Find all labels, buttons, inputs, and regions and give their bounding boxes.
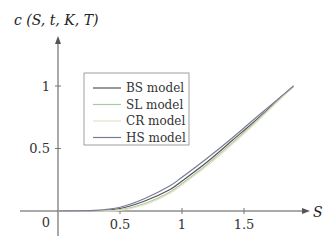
y-axis-label: c (S, t, K, T) <box>14 12 98 28</box>
legend: BS modelSL modelCR modelHS model <box>84 73 189 145</box>
x-tick-label: 1.5 <box>234 217 255 232</box>
x-tick-label: 1 <box>178 217 186 232</box>
x-axis-label: S <box>313 204 323 220</box>
legend-label: SL model <box>126 98 183 112</box>
x-tick-label: 0.5 <box>110 217 131 232</box>
legend-label: CR model <box>126 114 185 128</box>
y-tick-label: 1 <box>42 79 50 94</box>
y-tick-label: 0.5 <box>29 141 50 156</box>
x-axis-arrow-icon <box>302 208 310 214</box>
y-axis-arrow-icon <box>55 36 61 44</box>
origin-label: 0 <box>42 215 50 230</box>
legend-label: BS model <box>126 81 184 95</box>
option-price-chart: c (S, t, K, T) S 0 0.5 1 1.5 0.5 1 BS mo… <box>0 0 336 244</box>
legend-label: HS model <box>126 131 186 145</box>
